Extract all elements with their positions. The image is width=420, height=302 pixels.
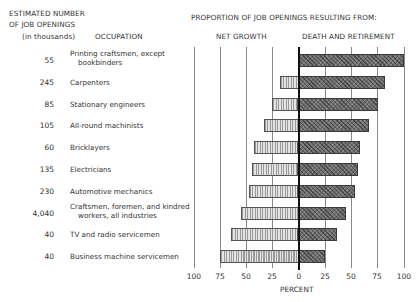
death-retirement-bar [299,228,337,241]
net-growth-bar [249,185,298,198]
occupation-label-line: Carpenters [70,78,110,87]
x-tick-label: 25 [313,272,337,281]
job-openings-value: 40 [14,252,54,261]
occupation-label-line: Electricians [70,165,111,174]
zero-axis-line [298,47,300,270]
x-tick-label: 100 [182,272,206,281]
occupation-label: Carpenters [70,78,110,87]
occupation-label: Stationary engineers [70,100,145,109]
plot-area: 100755025025507510055Printing craftsmen,… [0,0,420,302]
job-openings-value: 4,040 [14,209,54,218]
x-tick-label: 50 [234,272,258,281]
death-retirement-bar [299,54,404,67]
occupation-label: All-round machinists [70,121,143,130]
job-openings-value: 135 [14,165,54,174]
net-growth-bar [252,163,298,176]
job-openings-value: 105 [14,121,54,130]
x-tick-label: 25 [260,272,284,281]
job-openings-value: 245 [14,78,54,87]
occupation-label: Bricklayers [70,143,110,152]
death-retirement-bar [299,141,360,154]
x-tick-label: 100 [392,272,416,281]
death-retirement-bar [299,250,325,263]
gridline [194,47,195,268]
net-growth-bar [241,207,299,220]
x-tick-label: 50 [339,272,363,281]
death-retirement-bar [299,119,369,132]
job-openings-value: 60 [14,143,54,152]
gridline [404,47,405,268]
job-openings-value: 55 [14,56,54,65]
occupation-label: Craftsmen, foremen, and kindredworkers, … [70,202,189,220]
occupation-label-line: TV and radio servicemen [70,230,160,239]
occupation-label-line: workers, all industries [70,211,189,220]
occupation-label-line: bookbinders [70,58,165,67]
net-growth-bar [272,98,298,111]
x-tick-label: 75 [365,272,389,281]
x-tick-label: 0 [287,272,311,281]
occupation-label-line: Stationary engineers [70,100,145,109]
x-axis-label: PERCENT [280,285,313,294]
gridline [220,47,221,268]
job-openings-value: 85 [14,100,54,109]
occupation-label: Printing craftsmen, exceptbookbinders [70,49,165,67]
net-growth-bar [220,250,299,263]
death-retirement-bar [299,207,346,220]
occupation-label-line: Craftsmen, foremen, and kindred [70,202,189,211]
net-growth-bar [254,141,298,154]
death-retirement-bar [299,185,355,198]
occupation-label-line: All-round machinists [70,121,143,130]
occupation-label: TV and radio servicemen [70,230,160,239]
death-retirement-bar [299,76,385,89]
x-tick-label: 75 [208,272,232,281]
net-growth-bar [264,119,299,132]
net-growth-bar [231,228,298,241]
occupation-label: Business machine servicemen [70,252,179,261]
occupation-label: Automotive mechanics [70,187,152,196]
death-retirement-bar [299,98,378,111]
net-growth-bar [280,76,299,89]
occupation-label-line: Printing craftsmen, except [70,49,165,58]
occupation-label-line: Business machine servicemen [70,252,179,261]
job-openings-value: 40 [14,230,54,239]
job-openings-value: 230 [14,187,54,196]
occupation-label-line: Bricklayers [70,143,110,152]
death-retirement-bar [299,163,358,176]
occupation-label-line: Automotive mechanics [70,187,152,196]
occupation-label: Electricians [70,165,111,174]
